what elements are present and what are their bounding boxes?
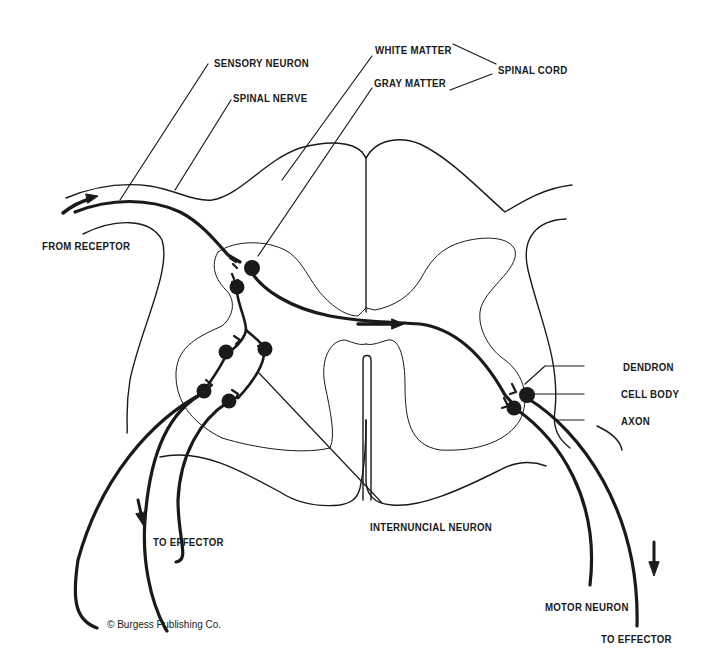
spinal-cord-outline <box>66 140 622 506</box>
label-to-effector-right: TO EFFECTOR <box>601 633 672 645</box>
internuncial-neuron-paths <box>208 293 264 398</box>
cell-body-sensory <box>244 260 260 276</box>
label-gray-matter: GRAY MATTER <box>374 77 446 89</box>
cell-body-internuncial-5 <box>222 394 237 409</box>
cell-body-internuncial-1 <box>230 280 245 295</box>
label-white-matter: WHITE MATTER <box>375 44 452 56</box>
reflex-arc-diagram: SENSORY NEURON SPINAL NERVE WHITE MATTER… <box>0 0 717 671</box>
cell-body-motor-1 <box>519 387 535 403</box>
cell-body-internuncial-2 <box>219 345 234 360</box>
publisher-credit: © Burgess Publishing Co. <box>107 619 221 630</box>
label-cell-body: CELL BODY <box>621 388 679 400</box>
label-spinal-cord: SPINAL CORD <box>498 64 567 76</box>
label-spinal-nerve: SPINAL NERVE <box>233 92 307 104</box>
label-dendron: DENDRON <box>623 361 674 373</box>
label-axon: AXON <box>621 415 650 427</box>
label-to-effector-left: TO EFFECTOR <box>153 536 224 548</box>
label-from-receptor: FROM RECEPTOR <box>42 240 130 252</box>
motor-neuron-paths <box>75 392 637 631</box>
label-motor-neuron: MOTOR NEURON <box>545 601 629 613</box>
dendrite-synapses <box>206 258 516 408</box>
cell-body-internuncial-4 <box>197 384 212 399</box>
label-internuncial-neuron: INTERNUNCIAL NEURON <box>370 521 492 533</box>
cell-body-motor-2 <box>507 401 522 416</box>
sensory-neuron-path <box>75 202 514 406</box>
gray-matter-outline <box>176 238 525 451</box>
to-effector-right-arrow <box>649 542 659 576</box>
label-sensory-neuron: SENSORY NEURON <box>214 57 309 69</box>
leader-lines <box>120 44 584 503</box>
cell-body-internuncial-3 <box>258 342 273 357</box>
to-effector-left-arrow <box>136 500 146 528</box>
diagram-drawing <box>0 0 717 671</box>
